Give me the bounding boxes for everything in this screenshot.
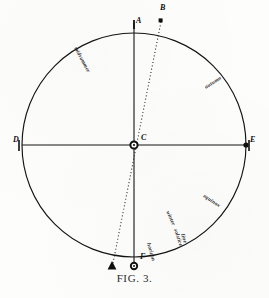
figure-container: A B C D E F midsummer autumn equinox win… [0,0,269,298]
point-label-a: A [136,16,141,25]
figure-caption: FIG. 3. [0,272,269,284]
point-label-b: B [160,3,165,12]
point-label-f: F [140,252,145,261]
point-label-c: C [141,133,146,142]
point-label-d: D [13,135,19,144]
right-point-dot [243,142,248,147]
point-label-e: E [250,135,255,144]
triangle-marker [108,261,117,270]
figure-drawing [0,0,269,298]
bottom-point-dot [133,265,135,267]
centre-point-dot [133,144,135,146]
point-b-marker [159,18,163,22]
